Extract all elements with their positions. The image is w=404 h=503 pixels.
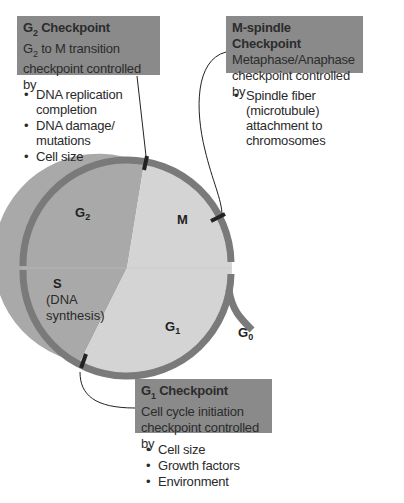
- g1-checkpoint-box: G1 Checkpoint Cell cycle initiation chec…: [135, 379, 272, 433]
- phase-label-s: S: [53, 276, 62, 291]
- list-item: Growth factors: [144, 458, 284, 473]
- g2-checkpoint-factors: DNA replication completion DNA damage/ m…: [22, 87, 132, 165]
- g2-checkpoint-box: G2 Checkpoint G2 to M transition checkpo…: [17, 16, 160, 75]
- list-item: DNA replication completion: [22, 87, 132, 117]
- phase-label-g2: G2: [75, 205, 90, 222]
- list-item: Spindle fiber (microtubule) attachment t…: [232, 88, 382, 148]
- g0-branch: [229, 290, 252, 330]
- g2-checkpoint-title: G2 Checkpoint: [23, 20, 154, 41]
- s-note-line2: synthesis): [46, 308, 105, 324]
- phase-label-m: M: [177, 212, 188, 227]
- list-item: Cell size: [144, 442, 284, 457]
- g1-checkpoint-factors: Cell size Growth factors Environment: [144, 442, 284, 490]
- g1-checkpoint-desc-line1: Cell cycle initiation: [141, 404, 266, 420]
- list-item: Cell size: [22, 149, 132, 164]
- m-checkpoint-factors: Spindle fiber (microtubule) attachment t…: [232, 88, 382, 149]
- g2-checkpoint-desc: G2 to M transition: [23, 41, 154, 62]
- m-checkpoint-desc-line1: Metaphase/Anaphase: [232, 52, 357, 68]
- m-spindle-checkpoint-box: M-spindle Checkpoint Metaphase/Anaphase …: [226, 16, 363, 73]
- list-item: Environment: [144, 474, 284, 489]
- phase-s-note: (DNA synthesis): [46, 292, 105, 324]
- s-note-line1: (DNA: [46, 292, 105, 308]
- phase-label-g1: G1: [165, 319, 180, 336]
- list-item: DNA damage/ mutations: [22, 118, 132, 148]
- m-checkpoint-title: M-spindle Checkpoint: [232, 20, 357, 52]
- g1-checkpoint-title: G1 Checkpoint: [141, 383, 266, 404]
- phase-label-g0: G0: [238, 325, 253, 342]
